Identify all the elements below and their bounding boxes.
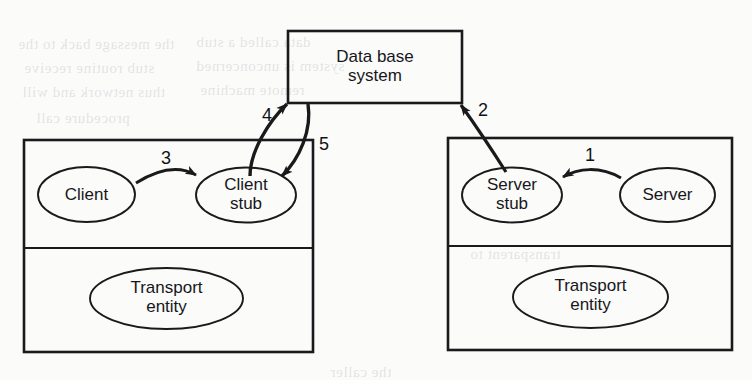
server-transport-entity-ellipse bbox=[513, 266, 668, 328]
arrow-1-path bbox=[563, 170, 621, 178]
arrow-label-2: 2 bbox=[478, 100, 488, 121]
server-stub-ellipse bbox=[462, 168, 562, 223]
client-transport-entity-ellipse bbox=[90, 268, 243, 329]
data-base-system-box bbox=[288, 31, 462, 103]
client-ellipse bbox=[38, 167, 135, 222]
diagram-canvas: the message back to the data called a st… bbox=[0, 0, 752, 380]
arrow-label-3: 3 bbox=[161, 148, 171, 169]
diagram-svg bbox=[0, 0, 752, 380]
arrow-label-4: 4 bbox=[262, 105, 272, 126]
arrow-3-path bbox=[136, 170, 196, 183]
client-stub-ellipse bbox=[196, 168, 296, 223]
client-machine-box bbox=[24, 140, 313, 352]
arrow-label-5: 5 bbox=[319, 134, 329, 155]
server-ellipse bbox=[620, 168, 715, 222]
arrow-label-1: 1 bbox=[585, 145, 595, 166]
